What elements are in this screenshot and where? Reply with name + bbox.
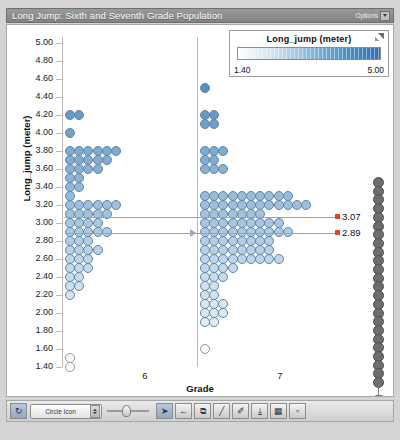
data-point[interactable] (93, 245, 103, 255)
callout-value: 3.07 (342, 211, 361, 222)
pan-icon: ← (179, 407, 188, 416)
y-axis-tick (56, 349, 62, 350)
options-menu[interactable]: Options (356, 11, 393, 21)
y-axis-tick (56, 331, 62, 332)
data-point[interactable] (65, 128, 75, 138)
data-point[interactable] (301, 200, 311, 210)
plot-panel[interactable]: Long_jump (meter) 1.40 5.00 5.004.804.60… (6, 24, 394, 397)
legend-max-value: 5.00 (367, 65, 384, 75)
y-axis-tick (56, 169, 62, 170)
y-axis-tick (56, 187, 62, 188)
data-point[interactable] (274, 254, 284, 264)
y-axis-tick (56, 61, 62, 62)
data-point[interactable] (200, 344, 210, 354)
legend-box[interactable]: Long_jump (meter) 1.40 5.00 (229, 30, 389, 77)
y-tick-label: 1.40 (13, 361, 53, 371)
pointer-tool[interactable]: ➤ (156, 403, 173, 419)
y-axis-title: Long_jump (meter) (21, 89, 32, 229)
callout-value: 2.89 (342, 227, 361, 238)
x-tick-label-7: 7 (265, 370, 295, 381)
reference-line-callout[interactable]: 2.89 (335, 227, 361, 238)
legend-title: Long_jump (meter) (230, 34, 388, 44)
data-point[interactable] (102, 155, 112, 165)
y-axis-tick (56, 115, 62, 116)
reference-line-callout[interactable]: 3.07 (335, 211, 361, 222)
y-tick-label: 2.00 (13, 307, 53, 317)
size-slider[interactable] (107, 404, 149, 418)
data-point[interactable] (218, 272, 228, 282)
y-axis-tick (56, 79, 62, 80)
legend-min-value: 1.40 (234, 65, 251, 75)
data-point[interactable] (74, 182, 84, 192)
y-tick-label: 1.80 (13, 325, 53, 335)
data-point[interactable] (218, 146, 228, 156)
note-tool[interactable]: ▫ (289, 403, 306, 419)
options-menu-label: Options (356, 12, 378, 19)
brush-tool[interactable]: ✐ (232, 403, 249, 419)
icon-type-select[interactable]: Circle Icon (30, 404, 102, 419)
data-point[interactable] (93, 164, 103, 174)
brush-icon: ✐ (237, 407, 245, 416)
callout-marker (335, 230, 340, 235)
y-axis-tick (56, 295, 62, 296)
data-point[interactable] (111, 146, 121, 156)
y-axis-tick (56, 151, 62, 152)
data-point[interactable] (209, 119, 219, 129)
y-axis-tick (56, 277, 62, 278)
download-tool[interactable]: ⤓ (251, 403, 268, 419)
y-tick-label: 1.60 (13, 343, 53, 353)
icon-type-value: Circle Icon (31, 408, 90, 415)
data-point[interactable] (74, 281, 84, 291)
y-axis-tick (56, 367, 62, 368)
table-tool[interactable]: ▦ (270, 403, 287, 419)
data-point[interactable] (228, 263, 238, 273)
y-axis-tick (56, 241, 62, 242)
y-tick-label: 4.20 (13, 109, 53, 119)
data-point[interactable] (65, 290, 75, 300)
y-tick-label: 3.00 (13, 217, 53, 227)
page-title: Long Jump: Sixth and Seventh Grade Popul… (7, 10, 222, 21)
y-axis-tick (56, 223, 62, 224)
data-point[interactable] (264, 200, 274, 210)
y-tick-label: 5.00 (13, 37, 53, 47)
y-tick-label: 2.20 (13, 289, 53, 299)
y-tick-label: 4.80 (13, 55, 53, 65)
y-tick-label: 2.40 (13, 271, 53, 281)
data-point[interactable] (264, 254, 274, 264)
data-point[interactable] (83, 263, 93, 273)
x-tick-label-6: 6 (130, 370, 160, 381)
chevron-down-icon[interactable] (380, 11, 390, 21)
resize-corner-icon[interactable] (375, 33, 384, 42)
data-point[interactable] (111, 200, 121, 210)
data-point[interactable] (65, 362, 75, 372)
y-tick-label: 3.80 (13, 145, 53, 155)
slider-handle[interactable] (122, 405, 131, 417)
chevron-down-icon[interactable] (90, 405, 100, 418)
y-tick-label: 3.40 (13, 181, 53, 191)
pencil-tool[interactable]: ╱ (213, 403, 230, 419)
data-point[interactable] (74, 110, 84, 120)
bottom-toolbar[interactable]: ↻ Circle Icon ➤←⧉╱✐⤓▦▫ (6, 400, 394, 422)
window-title-bar: Long Jump: Sixth and Seventh Grade Popul… (6, 8, 394, 23)
legend-color-gradient (237, 47, 381, 60)
y-axis-tick (56, 313, 62, 314)
tool-button-group[interactable]: ➤←⧉╱✐⤓▦▫ (156, 403, 306, 419)
link-tool[interactable]: ⧉ (194, 403, 211, 419)
pencil-icon: ╱ (219, 407, 224, 416)
y-tick-label: 2.80 (13, 235, 53, 245)
reference-line-handle[interactable] (190, 229, 196, 237)
refresh-icon[interactable]: ↻ (10, 403, 27, 419)
reference-line (65, 233, 337, 234)
data-point[interactable] (218, 164, 228, 174)
note-icon: ▫ (296, 407, 299, 416)
y-tick-label: 3.60 (13, 163, 53, 173)
data-point[interactable] (209, 317, 219, 327)
y-axis-tick (56, 259, 62, 260)
data-point[interactable] (83, 164, 93, 174)
y-tick-label: 4.60 (13, 73, 53, 83)
link-icon: ⧉ (200, 407, 206, 416)
strip-down-arrow-icon[interactable] (375, 395, 383, 397)
data-point[interactable] (218, 308, 228, 318)
data-point[interactable] (200, 83, 210, 93)
pan-tool[interactable]: ← (175, 403, 192, 419)
